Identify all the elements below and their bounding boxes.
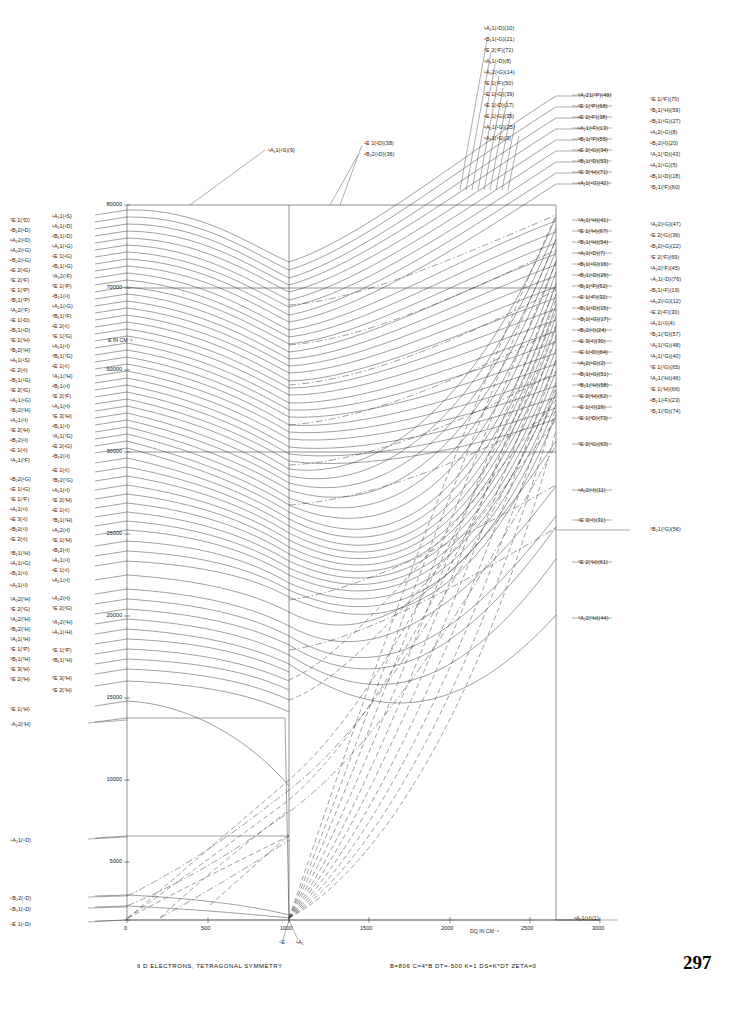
ground-label-mid-right: ¹A₁ (296, 940, 304, 945)
energy-level-label: ³E 1(³P) (10, 288, 30, 293)
energy-level-label: ¹E 1(¹D) (10, 318, 30, 323)
y-tick-50000: 50000 (104, 366, 122, 372)
energy-level-label: ¹B₂1(¹I) (52, 384, 70, 389)
energy-level-label: ¹E 2(¹G) (10, 268, 30, 273)
energy-level-label: ⁷A₂2(³H) (10, 722, 31, 727)
energy-level-label: ³B₁1(³G) (52, 354, 73, 359)
energy-level-label: ³B₁1(³H)(54) (578, 240, 608, 245)
energy-level-label: ¹B₂2(¹G)(22) (650, 244, 681, 249)
energy-level-label: ³E 3(³H) (52, 676, 72, 681)
energy-level-label: ³E 1(³F) (10, 497, 29, 502)
energy-level-label: ³A₂2(¹G)(47) (650, 222, 681, 227)
figure-page: 80000 70000 50000 30000 25000 20000 1500… (0, 0, 736, 1026)
energy-level-label: ¹E 2(¹F)(30) (650, 310, 679, 315)
energy-level-label: ¹B₁1(¹I) (10, 571, 28, 576)
ground-label-right: ¹A₁1(¹I)(1) (574, 916, 599, 921)
energy-level-label: ³B₁1(³F)(52) (578, 284, 608, 289)
energy-level-label: ¹A₁1(¹D)(7) (578, 251, 605, 256)
energy-level-label: ³B₂2(³H) (10, 408, 31, 413)
energy-level-label: ³B₂1(³D)(74) (650, 409, 681, 414)
energy-level-label: ¹B₁1(¹G)(21) (484, 37, 515, 42)
energy-level-label: ¹B₂2(¹I)(24) (578, 328, 606, 333)
energy-level-label: ¹E 2(¹I) (10, 368, 28, 373)
energy-level-label: ¹A₂2(¹I) (52, 528, 70, 533)
energy-level-label: ³A₂2(³F)(45) (650, 266, 680, 271)
energy-level-label: ³E 2(³G) (10, 607, 30, 612)
energy-level-label: ¹B₁1(¹G)(27) (650, 119, 681, 124)
energy-level-label: ³E 1(³G)(65) (650, 365, 680, 370)
energy-level-label: ¹E 2(¹G)(34) (578, 148, 608, 153)
energy-level-label: ¹E 1(¹D)(64) (578, 350, 608, 355)
energy-level-label: ³B₁1(³F)(55) (578, 137, 608, 142)
energy-level-label: ¹A₁1(¹I) (10, 507, 28, 512)
energy-level-label: ³B₂2(³G) (52, 478, 73, 483)
ground-label-mid-left: ⁵E (279, 940, 285, 945)
energy-level-label: ¹A₁1(¹G) (10, 561, 31, 566)
energy-level-label: ³E 3(³H) (52, 414, 72, 419)
figure-parameters: B=806 C=4*B DT=-500 K=1 DS=K*DT ZETA=0 (390, 963, 536, 969)
energy-level-label: ³E 2(³H)(61) (578, 560, 608, 565)
energy-level-label: ¹B₁1(¹G)(51) (578, 372, 609, 377)
x-tick-2000: 2000 (441, 925, 453, 931)
energy-level-label: ¹E 2(¹G) (52, 444, 72, 449)
energy-level-label: ¹B₂2(¹D)(36) (364, 152, 395, 157)
energy-level-label: ¹B₁1(¹D)(15) (578, 306, 608, 311)
energy-level-label: ¹B₂2(¹I) (52, 454, 70, 459)
energy-level-label: ¹A₂2(¹G)(12) (650, 299, 681, 304)
energy-level-label: ³B₂1(³F)(60) (650, 185, 680, 190)
energy-level-label: ¹A₂1(¹I) (52, 404, 70, 409)
energy-level-label: ³E 1(³D) (10, 218, 30, 223)
energy-level-label: ³E 2(³F) (52, 394, 71, 399)
y-tick-15000: 15000 (104, 694, 122, 700)
energy-level-label: ³B₁1(³H) (10, 657, 30, 662)
energy-level-label: ¹A₁1(¹D)(10) (484, 26, 514, 31)
energy-level-label: ¹B₁1(¹I) (52, 424, 70, 429)
x-tick-1500: 1500 (360, 925, 372, 931)
energy-level-label: ³A₁1(³D)(43) (650, 152, 680, 157)
energy-level-label: ¹B₁1(¹G) (52, 264, 73, 269)
level-curves-solid (95, 96, 600, 921)
energy-level-label: ³E 2(³G) (52, 606, 72, 611)
energy-level-label: ³B₂1(³H)(58) (578, 383, 609, 388)
energy-level-label: ¹A₁1(¹G)(5) (650, 163, 677, 168)
energy-level-label: ¹B₂2(¹G) (10, 477, 31, 482)
energy-level-label: ³B₁2(³H) (10, 348, 30, 353)
energy-level-label: ¹A₁1(¹S) (52, 214, 72, 219)
energy-level-label: ³B₂1(³D)(57) (650, 332, 681, 337)
energy-level-label: ³E 2(³F) (10, 278, 29, 283)
energy-level-label: ¹B₁1(¹G)(17) (578, 317, 609, 322)
energy-level-label: ¹B₁1(¹D)(18) (650, 174, 680, 179)
energy-level-label: ¹B₁1(¹D) (52, 234, 72, 239)
axis-ticks (124, 205, 600, 923)
energy-level-label: ¹E 1(¹I) (52, 568, 70, 573)
energy-level-label: ¹B₁1(¹G) (10, 378, 31, 383)
energy-level-label: ¹A₂1(¹G)(25) (484, 125, 515, 130)
energy-level-label: ³E 3(³H) (10, 667, 30, 672)
y-tick-20000: 20000 (104, 612, 122, 618)
energy-level-label: ³E 1(³P) (10, 647, 30, 652)
energy-level-label: ¹B₁2(¹I) (10, 527, 28, 532)
level-curves-dashed (128, 215, 556, 918)
energy-level-label: ³A₂21(³P)(49) (578, 93, 611, 98)
energy-level-label: ¹E 1(¹D)(17) (484, 103, 514, 108)
energy-level-label: ³E 1(³H) (10, 707, 30, 712)
energy-level-label: ¹E 3(¹I)(30) (578, 339, 606, 344)
energy-level-label: ¹B₂2(¹D) (10, 228, 31, 233)
energy-level-label: ³A₂1(³F) (10, 458, 30, 463)
energy-level-label: ⁵E 1(⁵D) (10, 922, 31, 927)
energy-level-label: ³E 1(³H)(66) (650, 387, 680, 392)
energy-level-label: ¹E 1(¹I) (52, 364, 70, 369)
energy-level-label: ³E 2(³H) (52, 498, 72, 503)
energy-level-label: ³A₂2(³F) (10, 308, 30, 313)
energy-level-label: ³E 1(³G) (52, 334, 72, 339)
energy-level-label: ¹A₁1(¹G) (52, 244, 73, 249)
energy-level-label: ³A₂2(³H) (10, 597, 31, 602)
energy-level-label: ¹B₁1(¹F)(19) (650, 288, 680, 293)
energy-level-label: ³E 1(³D)(73) (578, 416, 608, 421)
energy-level-label: ³E 2(³H) (52, 688, 72, 693)
energy-level-label: ³E 1(³H) (10, 338, 30, 343)
page-number: 297 (683, 952, 712, 974)
energy-level-label: ¹E 2(¹F)(38) (578, 115, 607, 120)
energy-level-label: ³B₂2(³H) (10, 627, 31, 632)
energy-level-label: ¹A₂2(¹D) (10, 238, 31, 243)
